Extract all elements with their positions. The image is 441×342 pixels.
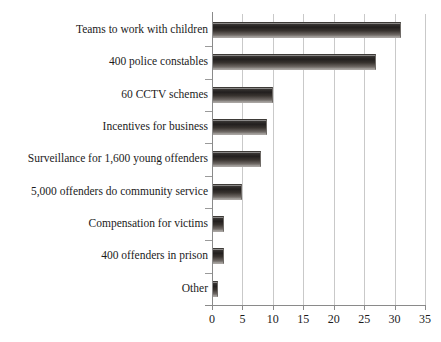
value-axis-label: 25: [349, 312, 379, 327]
category-label: 5,000 offenders do community service: [2, 185, 208, 198]
bar-row: [212, 273, 425, 305]
category-label-list: Teams to work with children400 police co…: [0, 14, 208, 305]
bar: [212, 248, 224, 264]
value-axis-tick-10: [273, 305, 274, 310]
bar-row: [212, 208, 425, 240]
bar: [212, 151, 261, 167]
category-label: Surveillance for 1,600 young offenders: [2, 152, 208, 165]
value-axis-tick-25: [364, 305, 365, 310]
bar: [212, 184, 242, 200]
bar-row: [212, 176, 425, 208]
plot-area: [212, 14, 425, 305]
category-axis-tick: [205, 111, 212, 112]
bar-row: [212, 79, 425, 111]
bar-row: [212, 111, 425, 143]
bar: [212, 54, 376, 70]
value-axis-label: 30: [380, 312, 410, 327]
bar-row: [212, 143, 425, 175]
bar-row: [212, 14, 425, 46]
bar-row: [212, 46, 425, 78]
value-axis-label: 20: [319, 312, 349, 327]
bar-chart: Teams to work with children400 police co…: [0, 0, 441, 342]
value-axis-label: 15: [288, 312, 318, 327]
category-axis-tick: [205, 208, 212, 209]
category-label: Compensation for victims: [2, 217, 208, 230]
value-axis-label: 35: [410, 312, 440, 327]
category-axis-line: [212, 12, 213, 306]
value-axis-tick-0: [212, 305, 213, 310]
category-axis-tick: [205, 273, 212, 274]
category-axis-tick: [205, 46, 212, 47]
category-label: Teams to work with children: [2, 23, 208, 36]
value-axis-line: [205, 305, 426, 306]
bar: [212, 87, 273, 103]
value-axis-tick-35: [425, 305, 426, 310]
category-axis-tick: [205, 240, 212, 241]
category-label: Other: [2, 282, 208, 295]
category-label: 60 CCTV schemes: [2, 88, 208, 101]
value-axis-label: 5: [227, 312, 257, 327]
bar: [212, 22, 401, 38]
category-axis-tick: [205, 143, 212, 144]
gridline-35: [425, 14, 426, 305]
category-axis-tick: [205, 79, 212, 80]
bar-row: [212, 240, 425, 272]
value-axis-label: 0: [197, 312, 227, 327]
category-label: 400 offenders in prison: [2, 249, 208, 262]
value-axis-tick-5: [242, 305, 243, 310]
value-axis-tick-20: [334, 305, 335, 310]
category-axis-tick: [205, 176, 212, 177]
value-axis-label: 10: [258, 312, 288, 327]
bar: [212, 119, 267, 135]
value-axis-tick-15: [303, 305, 304, 310]
value-axis-tick-30: [395, 305, 396, 310]
category-label: Incentives for business: [2, 120, 208, 133]
bar: [212, 216, 224, 232]
category-label: 400 police constables: [2, 55, 208, 68]
